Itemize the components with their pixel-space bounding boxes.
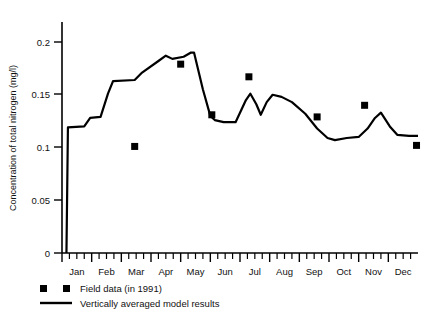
field-data-point: [314, 113, 321, 120]
field-data-point: [177, 61, 184, 68]
legend: Field data (in 1991) Vertically averaged…: [40, 283, 220, 309]
y-axis-tick-labels: 0.2 0.15 0.1 0.05 0: [32, 37, 51, 259]
nitrogen-concentration-figure: 0.2 0.15 0.1 0.05 0 Concentration of tot…: [0, 0, 429, 318]
legend-square-marker-b: [63, 285, 70, 292]
y-axis-title: Concentration of total nitrogen (mg/l): [8, 65, 18, 211]
model-results-line: [66, 53, 418, 253]
y-axis-group: [62, 22, 418, 253]
field-data-point: [413, 142, 420, 149]
x-tick-label-jan: Jan: [69, 266, 84, 277]
y-tick-label-0.2: 0.2: [37, 37, 50, 48]
x-tick-label-jun: Jun: [218, 266, 233, 277]
field-data-point: [245, 73, 252, 80]
x-tick-label-nov: Nov: [365, 266, 382, 277]
x-axis-ticks: [62, 253, 411, 262]
x-tick-label-aug: Aug: [276, 266, 293, 277]
field-data-point: [208, 111, 215, 118]
field-data-markers: [131, 61, 420, 150]
y-tick-label-0.05: 0.05: [32, 195, 51, 206]
x-tick-label-feb: Feb: [98, 266, 114, 277]
x-tick-label-may: May: [187, 266, 205, 277]
chart-canvas: 0.2 0.15 0.1 0.05 0 Concentration of tot…: [0, 0, 429, 318]
legend-label-model-results: Vertically averaged model results: [80, 298, 220, 309]
field-data-point: [361, 102, 368, 109]
y-tick-label-0.15: 0.15: [32, 89, 51, 100]
legend-label-field-data: Field data (in 1991): [80, 283, 162, 294]
field-data-point: [131, 143, 138, 150]
x-tick-label-jul: Jul: [249, 266, 261, 277]
x-tick-label-apr: Apr: [158, 266, 173, 277]
x-tick-label-oct: Oct: [336, 266, 351, 277]
x-tick-label-mar: Mar: [128, 266, 144, 277]
x-tick-label-sep: Sep: [306, 266, 323, 277]
x-axis-tick-labels: JanFebMarAprMayJunJulAugSepOctNovDec: [69, 266, 412, 277]
legend-square-marker-a: [40, 285, 47, 292]
y-tick-label-0.1: 0.1: [37, 142, 50, 153]
y-axis-ticks: [54, 42, 62, 253]
y-tick-label-0: 0: [45, 248, 50, 259]
x-tick-label-dec: Dec: [395, 266, 412, 277]
